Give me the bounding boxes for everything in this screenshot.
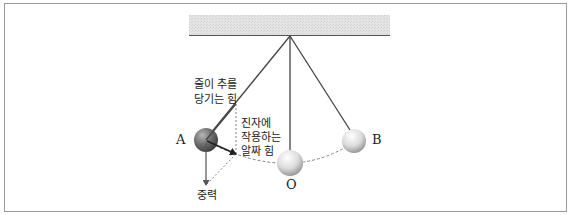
net-force-label-line3: 알짜 힘 <box>241 145 275 158</box>
point-o-label: O <box>286 177 297 192</box>
point-b-label: B <box>372 132 382 147</box>
tension-vector <box>206 104 236 140</box>
tension-label-line2: 당기는 힘 <box>194 93 238 106</box>
point-a-label: A <box>176 132 185 147</box>
tension-label-line1: 줄이 추를 <box>194 78 238 91</box>
ceiling <box>189 15 390 36</box>
ball-o <box>277 150 303 176</box>
gravity-label: 중력 <box>197 189 217 202</box>
ball-b <box>342 129 366 153</box>
net-force-label-line2: 작용하는 <box>241 131 281 144</box>
net-force-label-line1: 진자에 <box>241 117 271 130</box>
